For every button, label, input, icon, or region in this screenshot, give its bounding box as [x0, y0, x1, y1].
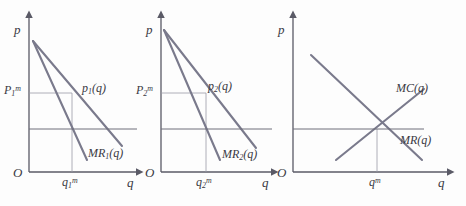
panel-1-quantity-sup: m: [72, 176, 78, 185]
panel-1-mr-curve: [33, 41, 87, 160]
panel-1-demand-label: p1(q): [82, 82, 106, 96]
panel-2-mr-label: MR2(q): [222, 148, 257, 162]
panel-1-price-label: P1m: [4, 84, 21, 98]
economics-figure: p q O P1m q1m p1(q) MR1(q) p q O P2m q2m…: [0, 0, 466, 206]
panel-3-origin-label: O: [277, 166, 286, 179]
panel-3-mr-suffix: (q): [417, 133, 431, 147]
panel-1-demand-suffix: (q): [92, 81, 106, 95]
panel-2-demand-suffix: (q): [218, 79, 232, 93]
panel-1-demand-curve: [33, 41, 122, 146]
panel-1-mr-base: MR: [88, 146, 105, 160]
panel-3-mc-suffix: (q): [414, 81, 428, 95]
panel-3-quantity-sup: m: [375, 176, 381, 185]
panel-2-origin-label: O: [145, 166, 154, 179]
panel-1-x-axis-label: q: [127, 176, 134, 189]
panel-3-y-axis-label: p: [278, 23, 285, 36]
panel-2-mr-suffix: (q): [243, 147, 257, 161]
panel-3-mr-label: MR(q): [400, 134, 431, 146]
panel-1-price-sup: m: [15, 84, 21, 93]
panel-2-price-label: P2m: [136, 84, 153, 98]
panel-2-price-sup: m: [147, 84, 153, 93]
panel-3-mc-label: MC(q): [396, 82, 428, 94]
panel-1-y-axis-label: p: [14, 23, 21, 36]
panel-1-mr-label: MR1(q): [88, 147, 123, 161]
panel-2-mr-base: MR: [222, 147, 239, 161]
panel-1-mr-suffix: (q): [109, 146, 123, 160]
panel-3-mr-base: MR: [400, 133, 417, 147]
panel-2-quantity-sup: m: [206, 176, 212, 185]
panel-3-x-axis-label: q: [438, 176, 445, 189]
panel-3-mc-base: MC: [396, 81, 414, 95]
panel-2-x-axis-label: q: [262, 176, 269, 189]
panel-3-quantity-label: qm: [369, 176, 381, 188]
panel-2-y-axis-label: p: [146, 23, 153, 36]
panel-2-mr-curve: [164, 30, 220, 160]
panel-1-quantity-label: q1m: [62, 176, 78, 190]
panel-2-quantity-label: q2m: [196, 176, 212, 190]
panel-2-demand-label: p2(q): [208, 80, 232, 94]
panel-1-origin-label: O: [13, 166, 22, 179]
